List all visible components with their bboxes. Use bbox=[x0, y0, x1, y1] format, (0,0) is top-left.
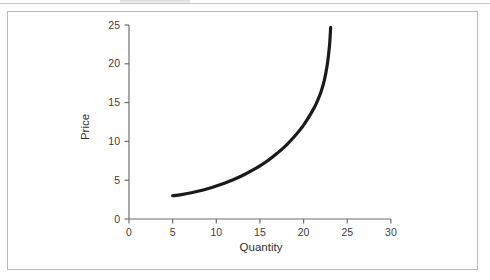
x-tick-label: 0 bbox=[126, 226, 132, 238]
page-top-rule bbox=[0, 3, 490, 4]
x-axis-ticks bbox=[129, 219, 391, 224]
y-axis-ticks bbox=[125, 25, 130, 219]
x-tick-label: 20 bbox=[298, 226, 310, 238]
x-axis-title: Quantity bbox=[240, 241, 283, 253]
x-tick-label: 10 bbox=[210, 226, 222, 238]
chart-plot: 0510152025 051015202530 Price Quantity bbox=[8, 12, 477, 269]
series-group bbox=[173, 27, 331, 195]
x-axis-tick-labels: 051015202530 bbox=[126, 226, 397, 238]
y-tick-label: 10 bbox=[108, 135, 120, 147]
x-tick-label: 15 bbox=[254, 226, 266, 238]
y-tick-label: 0 bbox=[114, 213, 120, 225]
figure-frame: 0510152025 051015202530 Price Quantity bbox=[7, 11, 478, 270]
supply-curve bbox=[173, 27, 331, 195]
y-tick-label: 15 bbox=[108, 96, 120, 108]
y-tick-label: 25 bbox=[108, 19, 120, 31]
x-tick-label: 30 bbox=[385, 226, 397, 238]
y-axis-title: Price bbox=[79, 114, 91, 140]
x-tick-label: 25 bbox=[341, 226, 353, 238]
y-axis-tick-labels: 0510152025 bbox=[108, 19, 120, 225]
y-tick-label: 5 bbox=[114, 174, 120, 186]
page-top-text-artifact bbox=[120, 0, 190, 5]
y-tick-label: 20 bbox=[108, 57, 120, 69]
x-tick-label: 5 bbox=[170, 226, 176, 238]
